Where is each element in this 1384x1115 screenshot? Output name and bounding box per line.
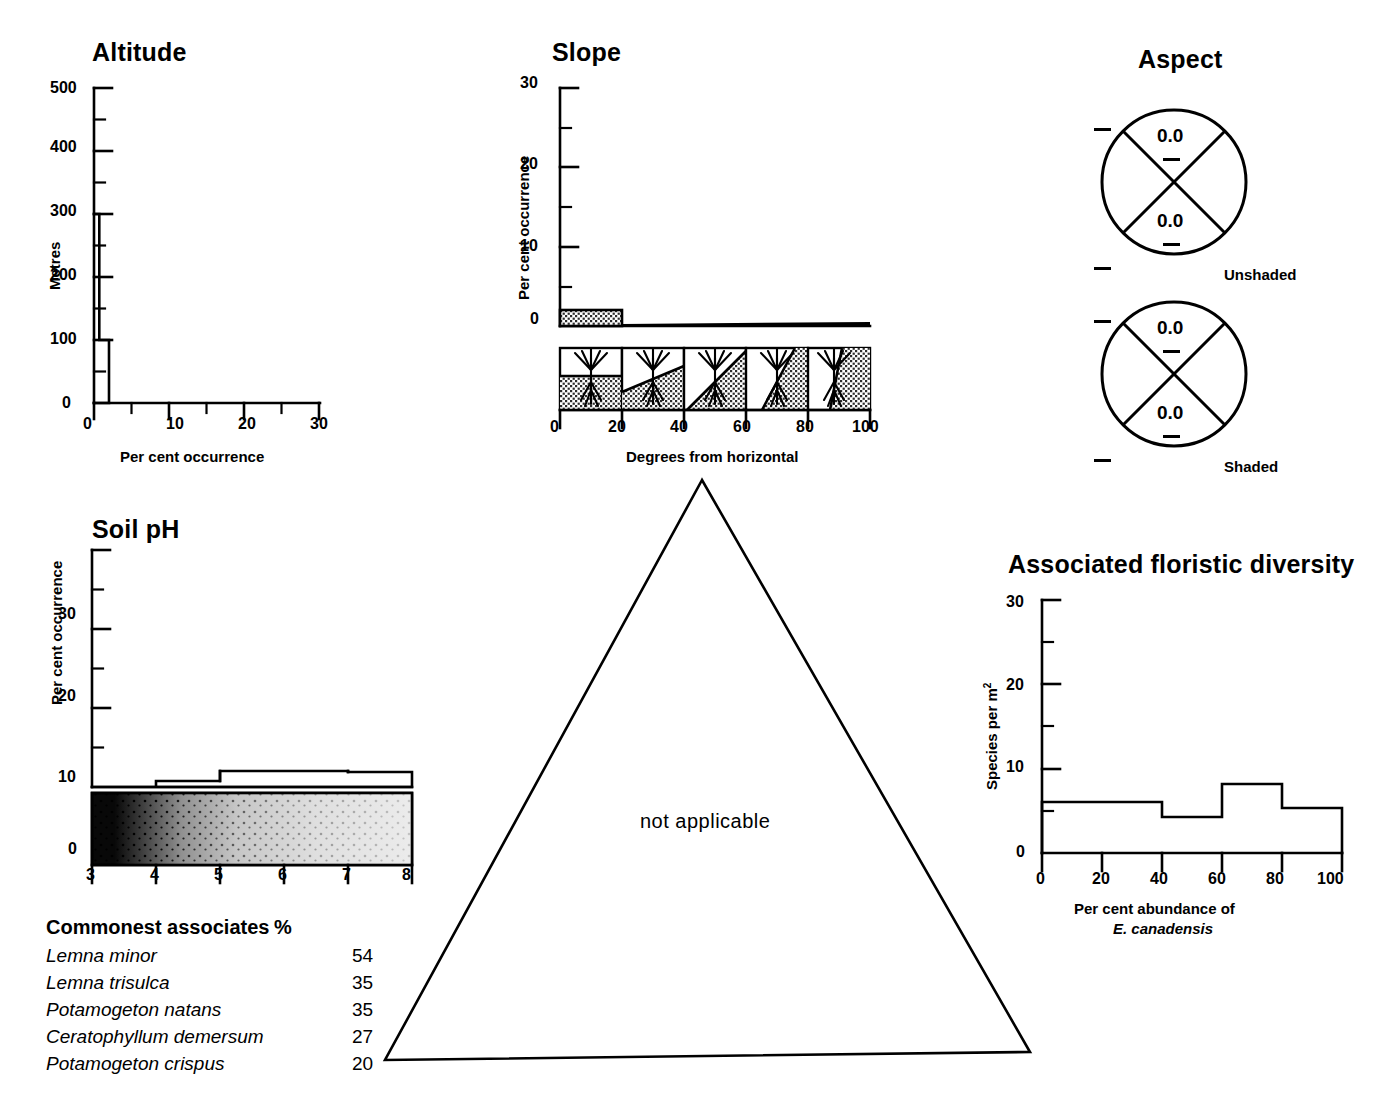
altitude-plot bbox=[0, 70, 340, 430]
slope-plot bbox=[490, 70, 910, 440]
species-name: Potamogeton natans bbox=[46, 996, 221, 1023]
floristic-diversity-panel: Associated floristic diversity Species p… bbox=[960, 540, 1384, 960]
slope-panel: Slope Per cent occurrence 0 10 20 30 0 2… bbox=[490, 0, 920, 480]
aspect-panel: Aspect 0.0 0.0 Unshaded 0.0 0.0 Shaded bbox=[1060, 0, 1384, 480]
altitude-title: Altitude bbox=[92, 38, 187, 67]
soil-ph-xtick-6: 6 bbox=[278, 866, 287, 884]
aspect-circle-unshaded: 0.0 0.0 Unshaded bbox=[1060, 100, 1384, 280]
species-name: Lemna minor bbox=[46, 942, 157, 969]
diversity-x-axis-label-line2: E. canadensis bbox=[1113, 920, 1213, 937]
slope-cell-60-80 bbox=[746, 348, 808, 410]
aspect-shaded-north-value: 0.0 bbox=[1157, 317, 1183, 339]
soil-ph-xtick-7: 7 bbox=[342, 866, 351, 884]
altitude-panel: Altitude Metres 0 100 200 300 400 500 0 … bbox=[0, 0, 360, 480]
slope-cell-40-60 bbox=[684, 348, 746, 410]
aspect-shaded-north-marker bbox=[1163, 350, 1180, 353]
species-name: Ceratophyllum demersum bbox=[46, 1023, 264, 1050]
slope-cell-0-20 bbox=[560, 348, 622, 410]
slope-bars bbox=[560, 310, 870, 326]
species-table-percent-header: % bbox=[274, 916, 292, 938]
species-table-header: Commonest associates bbox=[46, 916, 269, 938]
aspect-circle-shaded-graphic bbox=[1096, 292, 1296, 472]
diversity-x-axis-label-line1: Per cent abundance of bbox=[1074, 900, 1235, 917]
aspect-shaded-south-marker bbox=[1163, 435, 1180, 438]
aspect-title: Aspect bbox=[1138, 45, 1223, 74]
slope-title: Slope bbox=[552, 38, 621, 67]
aspect-unshaded-west-upper-marker bbox=[1094, 128, 1111, 131]
not-applicable-triangle bbox=[355, 460, 1055, 1080]
species-name: Potamogeton crispus bbox=[46, 1050, 225, 1077]
slope-cell-20-40 bbox=[622, 348, 684, 410]
diversity-bars bbox=[1042, 784, 1342, 853]
slope-cell-80-100 bbox=[808, 348, 870, 410]
aspect-shaded-west-upper-marker bbox=[1094, 320, 1111, 323]
not-applicable-label: not applicable bbox=[640, 810, 770, 833]
diversity-title: Associated floristic diversity bbox=[1008, 550, 1354, 579]
slope-pictogram-strip bbox=[560, 348, 870, 410]
soil-ph-xtick-4: 4 bbox=[150, 866, 159, 884]
soil-ph-xtick-5: 5 bbox=[214, 866, 223, 884]
aspect-shaded-west-lower-marker bbox=[1094, 459, 1111, 462]
aspect-unshaded-north-marker bbox=[1163, 158, 1180, 161]
diversity-plot bbox=[960, 588, 1380, 888]
aspect-circle-unshaded-graphic bbox=[1096, 100, 1296, 280]
altitude-x-axis-label: Per cent occurrence bbox=[120, 448, 264, 465]
aspect-unshaded-south-value: 0.0 bbox=[1157, 210, 1183, 232]
aspect-unshaded-west-lower-marker bbox=[1094, 267, 1111, 270]
aspect-shaded-south-value: 0.0 bbox=[1157, 402, 1183, 424]
aspect-unshaded-south-marker bbox=[1163, 243, 1180, 246]
aspect-unshaded-north-value: 0.0 bbox=[1157, 125, 1183, 147]
aspect-circle-shaded: 0.0 0.0 Shaded bbox=[1060, 292, 1384, 472]
species-name: Lemna trisulca bbox=[46, 969, 170, 996]
soil-ph-xtick-3: 3 bbox=[86, 866, 95, 884]
aspect-shaded-caption: Shaded bbox=[1224, 458, 1278, 475]
aspect-unshaded-caption: Unshaded bbox=[1224, 266, 1297, 283]
